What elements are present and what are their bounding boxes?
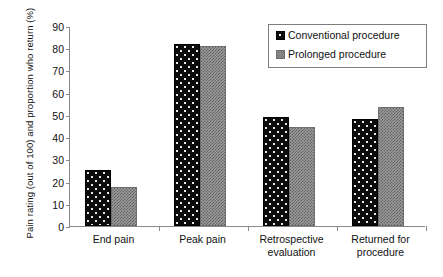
bar-chart: Pain rating (out of 100) and proportion … xyxy=(0,0,443,277)
x-axis-tick-label: End pain xyxy=(69,233,158,246)
legend-entry-prolonged: Prolonged procedure xyxy=(276,49,386,60)
bar-prolonged[interactable] xyxy=(200,46,226,226)
y-axis-tick-label: 30 xyxy=(38,155,64,166)
y-axis-tick-label: 70 xyxy=(38,66,64,77)
bar-group xyxy=(159,27,248,226)
x-axis-tick-mark xyxy=(159,226,160,231)
y-axis-tick-label: 60 xyxy=(38,89,64,100)
x-axis-tick-label: Returned for procedure xyxy=(336,233,425,258)
y-axis-tick-labels: 9080706050403020100 xyxy=(38,22,64,233)
x-axis-tick-label: Retrospective evaluation xyxy=(247,233,336,258)
y-axis-tick-label: 90 xyxy=(38,22,64,33)
chart-legend: Conventional procedure Prolonged procedu… xyxy=(268,24,427,68)
x-axis-tick-labels: End painPeak painRetrospective evaluatio… xyxy=(69,233,425,275)
x-axis-tick-label: Peak pain xyxy=(158,233,247,246)
legend-swatch-prolonged-icon xyxy=(276,50,285,59)
x-axis-tick-mark xyxy=(248,226,249,231)
x-axis-tick-mark xyxy=(337,226,338,231)
y-axis-tick-label: 0 xyxy=(38,222,64,233)
y-axis-tick-label: 10 xyxy=(38,200,64,211)
bar-conventional[interactable] xyxy=(352,119,378,226)
y-axis-title: Pain rating (out of 100) and proportion … xyxy=(24,9,35,239)
bar-prolonged[interactable] xyxy=(378,107,404,226)
legend-swatch-conventional-icon xyxy=(276,31,285,40)
y-axis-tick-label: 40 xyxy=(38,133,64,144)
y-axis-tick-label: 20 xyxy=(38,178,64,189)
y-axis-tick-mark xyxy=(66,227,70,228)
bar-conventional[interactable] xyxy=(85,170,111,226)
legend-label-prolonged: Prolonged procedure xyxy=(288,49,386,60)
bar-prolonged[interactable] xyxy=(111,187,137,226)
bar-group xyxy=(70,27,159,226)
legend-entry-conventional: Conventional procedure xyxy=(276,30,400,41)
y-axis-tick-label: 50 xyxy=(38,111,64,122)
y-axis-tick-label: 80 xyxy=(38,44,64,55)
legend-label-conventional: Conventional procedure xyxy=(288,30,400,41)
bar-prolonged[interactable] xyxy=(289,127,315,226)
x-axis-tick-mark xyxy=(426,226,427,231)
bar-conventional[interactable] xyxy=(174,44,200,226)
bar-conventional[interactable] xyxy=(263,117,289,226)
